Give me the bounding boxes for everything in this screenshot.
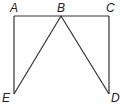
label-d: D (111, 91, 120, 105)
label-c: C (106, 1, 115, 15)
geometry-diagram: A B C E D (0, 0, 134, 107)
segment-bd (61, 16, 109, 94)
label-b: B (57, 1, 65, 15)
label-e: E (2, 91, 11, 105)
label-a: A (9, 1, 18, 15)
segment-be (14, 16, 61, 94)
